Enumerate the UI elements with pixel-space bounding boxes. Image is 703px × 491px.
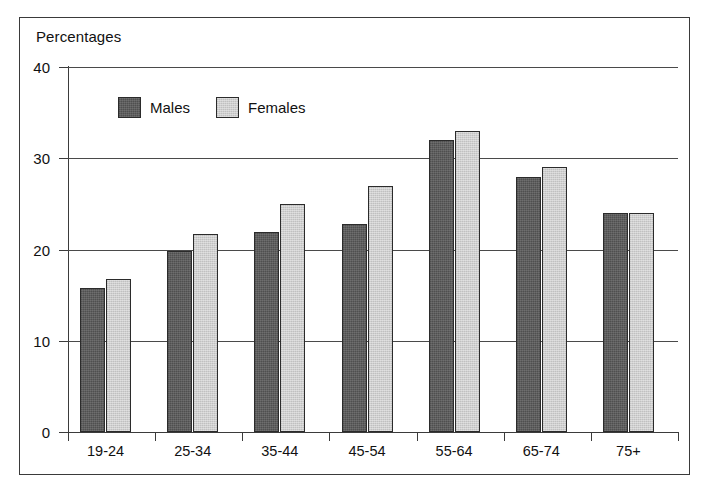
bar-males [516, 177, 541, 433]
y-tick-label: 20 [8, 241, 50, 258]
y-tick-mark [59, 432, 68, 433]
x-tick-label: 65-74 [523, 443, 560, 459]
x-tick-mark [155, 432, 156, 441]
legend-label-males: Males [150, 99, 190, 116]
legend-swatch-females-icon [216, 97, 239, 118]
y-tick-label: 40 [8, 59, 50, 76]
x-tick-label: 75+ [616, 443, 641, 459]
y-tick-mark [59, 341, 68, 342]
y-tick-mark [59, 67, 68, 68]
gridline [68, 158, 678, 159]
bar-females [368, 186, 393, 432]
chart-title: Percentages [36, 28, 121, 45]
y-tick-mark [59, 250, 68, 251]
bar-males [603, 213, 628, 432]
bar-males [80, 288, 105, 432]
x-tick-mark [678, 432, 679, 441]
legend-entry-males: Males [118, 97, 190, 118]
chart-figure: Percentages 010203040 19-2425-3435-4445-… [0, 0, 703, 491]
x-tick-mark [242, 432, 243, 441]
x-axis-line [68, 432, 678, 433]
bar-females [542, 167, 567, 432]
x-tick-label: 25-34 [174, 443, 211, 459]
bar-females [280, 204, 305, 432]
x-tick-mark [591, 432, 592, 441]
x-tick-mark [504, 432, 505, 441]
x-tick-label: 19-24 [87, 443, 124, 459]
bar-females [629, 213, 654, 432]
x-tick-label: 45-54 [348, 443, 385, 459]
legend-entry-females: Females [216, 97, 306, 118]
gridline [68, 67, 678, 68]
bar-females [106, 279, 131, 432]
x-tick-label: 55-64 [436, 443, 473, 459]
chart-legend: Males Females [118, 97, 306, 118]
bar-males [254, 232, 279, 432]
x-tick-label: 35-44 [261, 443, 298, 459]
bar-females [193, 234, 218, 432]
y-tick-label: 0 [8, 424, 50, 441]
x-tick-mark [417, 432, 418, 441]
bar-females [455, 131, 480, 432]
legend-swatch-males-icon [118, 97, 141, 118]
y-tick-mark [59, 158, 68, 159]
bar-males [167, 251, 192, 432]
legend-label-females: Females [248, 99, 306, 116]
y-tick-label: 10 [8, 332, 50, 349]
x-tick-mark [68, 432, 69, 441]
y-tick-label: 30 [8, 150, 50, 167]
x-tick-mark [329, 432, 330, 441]
bar-males [429, 140, 454, 432]
bar-males [342, 224, 367, 432]
